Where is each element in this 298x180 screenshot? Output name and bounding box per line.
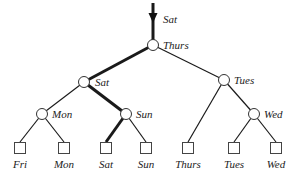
node-circle (79, 77, 90, 88)
leaf-node: Fri (12, 143, 27, 171)
internal-node: Sun (121, 108, 154, 120)
leaf-label: Sat (99, 158, 114, 170)
internal-node: Wed (249, 108, 284, 120)
leaf-square (15, 143, 26, 154)
leaf-label: Thurs (175, 158, 201, 170)
tree-diagram: Sat Thurs Sat Tues Mon Sun Wed (0, 0, 298, 180)
node-label: Sun (136, 108, 153, 120)
leaf-node: Mon (53, 143, 75, 171)
root-input-label: Sat (163, 13, 178, 25)
leaf-node: Tues (224, 143, 244, 171)
leaf-node: Thurs (175, 143, 201, 171)
leaf-label: Mon (53, 158, 75, 170)
node-circle (121, 109, 132, 120)
node-label: Mon (51, 108, 73, 120)
edge-tues-thurs (188, 80, 224, 142)
leaf-square (183, 143, 194, 154)
leaf-node: Sun (138, 143, 155, 171)
node-label: Sat (95, 76, 110, 88)
node-circle (249, 109, 260, 120)
tree-edges (20, 45, 276, 142)
node-label: Thurs (163, 39, 189, 51)
leaf-label: Tues (224, 158, 244, 170)
leaf-label: Wed (267, 158, 286, 170)
node-circle (148, 40, 159, 51)
leaf-square (229, 143, 240, 154)
leaf-square (101, 143, 112, 154)
node-label: Tues (234, 74, 254, 86)
leaf-label: Sun (138, 158, 155, 170)
internal-node: Mon (37, 108, 73, 120)
leaf-square (271, 143, 282, 154)
leaf-label: Fri (12, 158, 27, 170)
node-circle (37, 109, 48, 120)
leaf-node: Wed (267, 143, 286, 171)
root-input-arrow (149, 3, 158, 40)
leaf-square (59, 143, 70, 154)
node-label: Wed (264, 108, 283, 120)
internal-node: Thurs (148, 39, 189, 51)
node-circle (219, 75, 230, 86)
internal-node: Sat (79, 76, 111, 88)
leaf-square (141, 143, 152, 154)
leaf-node: Sat (99, 143, 114, 171)
internal-node: Tues (219, 74, 255, 86)
